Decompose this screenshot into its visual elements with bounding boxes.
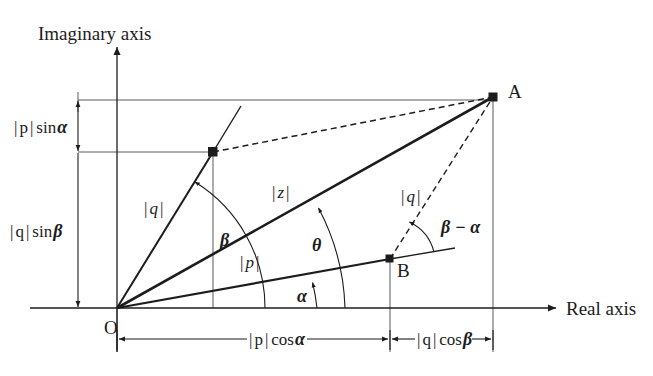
magnitude-label-z: |z| xyxy=(272,183,289,202)
vectors xyxy=(117,97,493,308)
point-label-O: O xyxy=(104,317,118,338)
arc-theta xyxy=(319,208,346,308)
angle-label-theta: θ xyxy=(312,235,322,255)
dimension-label-p-cos-alpha: |p|cosα xyxy=(249,329,306,349)
magnitude-label-p: |p| xyxy=(240,253,259,272)
complex-addition-diagram: Imaginary axis Real axis O A B |q| | q |… xyxy=(0,0,653,376)
dimension-label-p-sin-alpha: |p|sinα xyxy=(14,117,68,137)
point-label-B: B xyxy=(397,260,410,281)
vector-z xyxy=(117,97,493,308)
marker-point-B xyxy=(386,255,394,263)
magnitude-label-q-translated: |q| xyxy=(401,187,420,206)
diagonal-Q-to-A-dashed xyxy=(213,97,493,152)
figure-canvas: Imaginary axis Real axis O A B |q| | q |… xyxy=(0,0,653,376)
marker-point-Q xyxy=(208,147,218,157)
angle-label-beta: β xyxy=(219,230,230,250)
dimension-label-q-sin-beta: |q|sinβ xyxy=(10,221,63,241)
imaginary-axis-label: Imaginary axis xyxy=(38,23,151,44)
vector-q-from-origin xyxy=(117,152,213,308)
vector-q-from-origin-extension xyxy=(213,106,241,152)
real-axis-label: Real axis xyxy=(566,298,636,319)
point-label-A: A xyxy=(508,81,522,102)
angle-label-beta-minus-alpha: β − α xyxy=(440,217,481,237)
marker-point-A xyxy=(489,93,498,102)
arc-alpha xyxy=(313,283,317,308)
vector-p-extension-at-B xyxy=(390,248,455,259)
dimension-label-q-cos-beta: |q|cosβ xyxy=(417,329,473,349)
angle-label-alpha: α xyxy=(297,286,308,306)
magnitude-label-q-origin: |q| xyxy=(144,199,163,218)
axes xyxy=(30,47,556,352)
arc-beta-minus-alpha xyxy=(410,222,435,252)
